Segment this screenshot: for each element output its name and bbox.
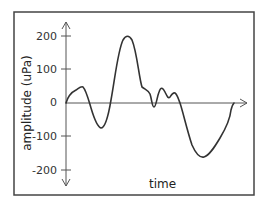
y-axis-title: amplitude (uPa): [20, 55, 34, 150]
x-axis-title: time: [149, 177, 176, 191]
chart: 200 100 0 -100 -200 amplitude (uPa) time: [0, 0, 268, 210]
y-tick-label: -200: [32, 164, 57, 177]
y-tick-label: 200: [36, 30, 57, 43]
waveform-line: [66, 36, 234, 157]
y-tick-label: -100: [32, 130, 57, 143]
y-tick-label: 0: [50, 96, 57, 109]
y-tick-label: 100: [36, 63, 57, 76]
